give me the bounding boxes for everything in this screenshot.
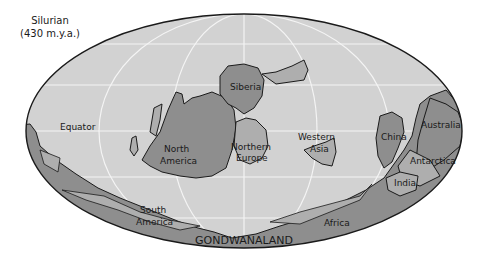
label-china: China	[381, 132, 407, 142]
label-australia: Australia	[421, 120, 461, 130]
label-siberia: Siberia	[230, 82, 261, 92]
label-western-asia-2: Asia	[310, 144, 329, 154]
label-equator: Equator	[60, 122, 96, 132]
label-south-america-2: America	[136, 217, 173, 227]
label-north-america-1: North	[164, 144, 189, 154]
label-africa: Africa	[324, 218, 350, 228]
label-north-america-2: America	[160, 156, 197, 166]
label-gondwanaland: GONDWANALAND	[195, 234, 293, 247]
label-india: India	[394, 178, 416, 188]
label-western-asia-1: Western	[298, 132, 335, 142]
label-south-america-1: South	[140, 205, 166, 215]
label-northern-europe-2: Europe	[236, 153, 268, 163]
paleo-map: Equator Siberia North America Northern E…	[0, 0, 486, 262]
label-northern-europe-1: Northern	[231, 142, 271, 152]
label-antarctica: Antarctica	[410, 156, 456, 166]
